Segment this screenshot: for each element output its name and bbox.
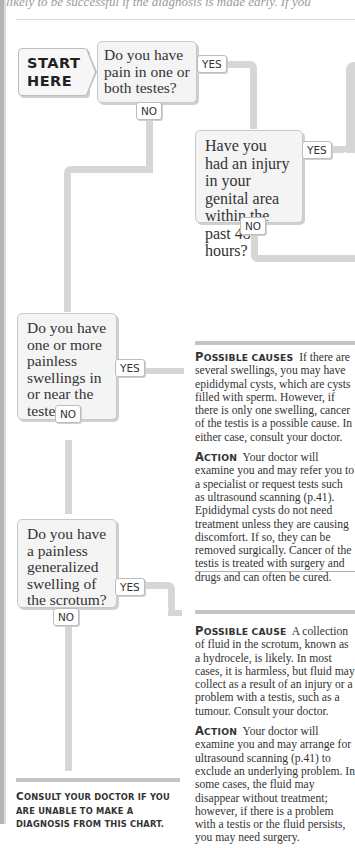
flow-line-q4-no (65, 620, 72, 771)
q1-yes-button[interactable]: YES (197, 55, 227, 73)
outcome-hydrocele: POSSIBLE CAUSE A collection of fluid in … (195, 625, 355, 848)
question-q2-text: Have you had an injury in your genital a… (205, 137, 289, 259)
q3-no-button[interactable]: NO (55, 405, 81, 423)
page-edge-strip (0, 0, 4, 824)
outcome-swellings-bottom-rule (195, 571, 355, 572)
question-q4-text: Do you have a painless generalized swell… (27, 525, 107, 608)
footer-rule (16, 778, 180, 782)
q3-yes-button[interactable]: YES (115, 359, 145, 377)
start-arrow-fill (86, 49, 95, 95)
q4-no-button[interactable]: NO (53, 608, 79, 626)
possible-cause-heading: POSSIBLE CAUSE (195, 626, 287, 637)
flow-line-q2-yes-up (346, 62, 355, 153)
question-q1-text: Do you have pain in one or both testes? (104, 46, 190, 96)
previous-page-text: likely to be successful if the diagnosis… (6, 0, 355, 10)
outcome-swellings-rule (195, 341, 355, 345)
action-heading: ACTION (195, 452, 237, 463)
question-q3-text: Do you have one or more painless swellin… (27, 319, 106, 419)
outcome-hydrocele-cause: POSSIBLE CAUSE A collection of fluid in … (195, 625, 355, 718)
flow-line-q3-no (65, 440, 72, 514)
top-divider (16, 19, 355, 20)
q1-no-button[interactable]: NO (136, 102, 162, 120)
flow-line-q4-yes-arrow (168, 610, 182, 616)
action-heading: ACTION (195, 726, 237, 737)
flow-line-q1-no (146, 118, 153, 160)
question-q1: Do you have pain in one or both testes? (97, 41, 197, 103)
q2-no-button[interactable]: NO (240, 217, 266, 235)
q4-yes-button[interactable]: YES (115, 578, 145, 596)
outcome-swellings-cause: POSSIBLE CAUSES If there are several swe… (195, 351, 355, 444)
possible-causes-heading: POSSIBLE CAUSES (195, 352, 293, 363)
question-q2: Have you had an injury in your genital a… (195, 130, 303, 223)
flow-line-q4-yes-down (168, 582, 175, 612)
flow-line-q1-yes-down (250, 61, 257, 129)
start-line1: START (27, 54, 87, 72)
outcome-swellings-action: ACTION Your doctor will examine you and … (195, 451, 355, 584)
outcome-hydrocele-action: ACTION Your doctor will examine you and … (195, 725, 355, 845)
q2-yes-button[interactable]: YES (302, 141, 332, 159)
start-line2: HERE (27, 72, 87, 90)
flow-line-q2-no-right (251, 255, 355, 262)
question-q3: Do you have one or more painless swellin… (17, 313, 117, 420)
start-here-label: START HERE (18, 48, 88, 96)
flow-line-q3-yes (144, 368, 184, 374)
question-q4: Do you have a painless generalized swell… (17, 519, 117, 608)
flow-line-to-q3-horizontal (66, 166, 153, 173)
footer-note: CONSULT YOUR DOCTOR IF YOU ARE UNABLE TO… (16, 790, 186, 832)
outcome-swellings: POSSIBLE CAUSES If there are several swe… (195, 351, 355, 591)
flow-line-to-q3-vertical (64, 166, 71, 312)
outcome-hydrocele-rule (195, 610, 355, 614)
